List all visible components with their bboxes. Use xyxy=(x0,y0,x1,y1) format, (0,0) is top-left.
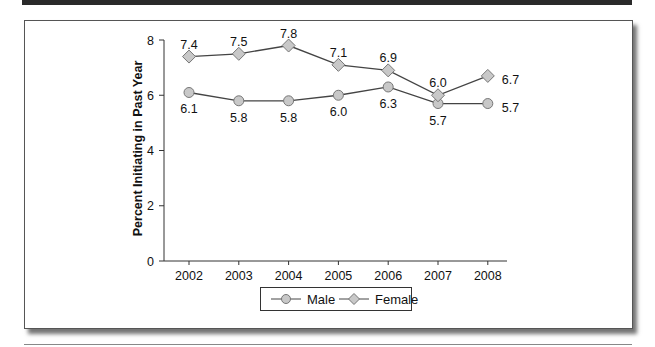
y-axis-title: Percent Initiating in Past Year xyxy=(131,61,145,237)
x-tick-label: 2003 xyxy=(225,269,253,283)
y-tick-label: 4 xyxy=(147,144,154,158)
male-point-marker xyxy=(333,90,343,100)
male-point-marker xyxy=(284,96,294,106)
male-point-marker xyxy=(383,82,393,92)
female-point-marker xyxy=(382,64,395,77)
data-label: 7.5 xyxy=(230,35,247,49)
data-label: 6.9 xyxy=(380,51,397,65)
female-point-marker xyxy=(481,69,494,82)
data-label: 5.8 xyxy=(230,111,247,125)
male-point-marker xyxy=(483,99,493,109)
y-tick-label: 0 xyxy=(147,255,154,269)
y-tick-label: 6 xyxy=(147,89,154,103)
x-tick-label: 2004 xyxy=(275,269,303,283)
x-tick-label: 2008 xyxy=(474,269,502,283)
male-point-marker xyxy=(184,87,194,97)
series-group: 6.15.85.86.06.35.75.77.47.57.87.16.96.06… xyxy=(180,27,519,128)
female-point-marker xyxy=(232,47,245,60)
data-label: 6.0 xyxy=(330,105,347,119)
male-point-marker xyxy=(234,96,244,106)
x-tick-label: 2002 xyxy=(175,269,203,283)
female-point-marker xyxy=(282,39,295,52)
legend-label-male: Male xyxy=(307,292,335,307)
x-tick-label: 2007 xyxy=(424,269,452,283)
data-label: 6.0 xyxy=(429,76,446,90)
x-tick-label: 2005 xyxy=(324,269,352,283)
data-label: 6.3 xyxy=(380,97,397,111)
female-point-marker xyxy=(332,58,345,71)
legend-item-male: Male xyxy=(271,291,335,307)
data-label: 5.7 xyxy=(502,101,519,115)
data-label: 5.8 xyxy=(280,111,297,125)
legend-item-female: Female xyxy=(339,291,418,307)
legend-label-female: Female xyxy=(375,292,418,307)
data-label: 5.7 xyxy=(429,114,446,128)
data-label: 7.4 xyxy=(180,38,197,52)
data-label: 6.1 xyxy=(180,102,197,116)
x-tick-label: 2006 xyxy=(374,269,402,283)
circle-marker-icon xyxy=(271,293,301,305)
female-point-marker xyxy=(183,50,196,63)
legend: Male Female xyxy=(260,287,412,311)
data-label: 6.7 xyxy=(502,73,519,87)
diamond-marker-icon xyxy=(339,293,369,305)
axes: 024682002200320042005200620072008Percent… xyxy=(131,34,507,284)
data-label: 7.8 xyxy=(280,27,297,41)
y-tick-label: 8 xyxy=(147,34,154,48)
data-label: 7.1 xyxy=(330,46,347,60)
female-point-marker xyxy=(432,89,445,102)
y-tick-label: 2 xyxy=(147,199,154,213)
